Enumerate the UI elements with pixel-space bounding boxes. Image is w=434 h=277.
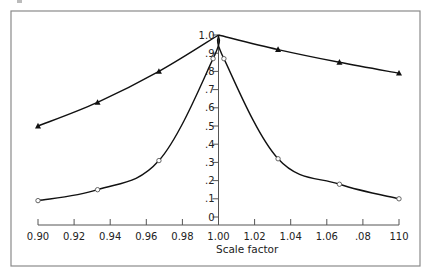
circle-marker: [397, 197, 401, 201]
y-tick-label: .7: [205, 84, 215, 95]
x-tick-label: 0.90: [27, 231, 49, 242]
x-tick-label: 110: [389, 231, 408, 242]
x-tick-label: 0.96: [135, 231, 157, 242]
circle-marker: [36, 198, 40, 202]
x-axis-title: Scale factor: [216, 243, 279, 255]
circle-marker: [95, 188, 99, 192]
y-tick-label: 0: [208, 212, 214, 223]
circle-marker: [337, 182, 341, 186]
circle-marker: [157, 158, 161, 162]
x-tick-label: 1.06: [316, 231, 338, 242]
chart-frame: [11, 11, 420, 266]
chart: 0.900.920.940.960.981.001.021.041.06.081…: [0, 0, 434, 277]
y-tick-label: .5: [205, 121, 215, 132]
y-tick-label: .3: [205, 157, 215, 168]
curve-left: [38, 35, 219, 126]
curve-right: [219, 35, 400, 73]
y-tick-label: .4: [205, 139, 215, 150]
x-tick-label: 0.98: [171, 231, 193, 242]
circle-marker: [211, 56, 215, 60]
curve-left: [38, 35, 219, 201]
x-tick-label: 1.04: [280, 231, 302, 242]
x-tick-label: 1.00: [207, 231, 229, 242]
circle-marker: [222, 56, 226, 60]
x-tick-label: 1.02: [243, 231, 265, 242]
y-tick-label: .1: [205, 193, 215, 204]
y-tick-label: .2: [205, 175, 215, 186]
y-tick-label: .6: [205, 102, 215, 113]
circle-marker: [276, 157, 280, 161]
x-tick-label: .08: [355, 231, 371, 242]
x-tick-label: 0.94: [99, 231, 121, 242]
x-tick-label: 0.92: [63, 231, 85, 242]
x-axis: 0.900.920.940.960.981.001.021.041.06.081…: [27, 219, 409, 242]
curve-right: [218, 35, 399, 199]
